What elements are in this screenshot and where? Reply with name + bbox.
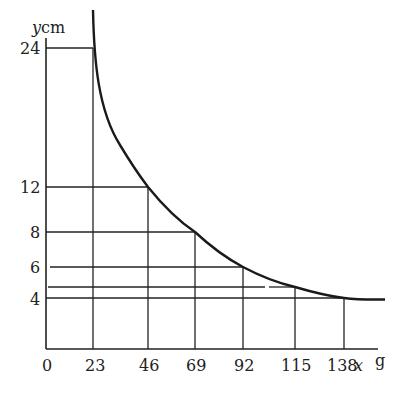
y-tick-6: 6 <box>30 258 40 277</box>
y-tick-12: 12 <box>20 178 40 197</box>
hyperbola-curve <box>93 10 385 300</box>
x-tick-46: 46 <box>139 356 159 375</box>
x-tick-69: 69 <box>186 356 206 375</box>
x-tick-115: 115 <box>281 356 312 375</box>
y-tick-4: 4 <box>30 290 40 309</box>
x-axis-var: x <box>354 356 363 375</box>
y-tick-24: 24 <box>20 39 40 58</box>
y-axis-title: ycm <box>31 18 65 37</box>
inverse-variation-chart: ycm 24 12 8 6 4 0 23 46 69 92 115 138 x … <box>0 0 414 401</box>
vertical-guides <box>93 48 344 349</box>
x-axis-unit: g <box>375 351 385 370</box>
x-tick-138: 138 <box>327 356 358 375</box>
x-tick-92: 92 <box>234 356 254 375</box>
y-tick-8: 8 <box>30 223 40 242</box>
x-origin-label: 0 <box>42 356 52 375</box>
x-tick-23: 23 <box>85 356 105 375</box>
